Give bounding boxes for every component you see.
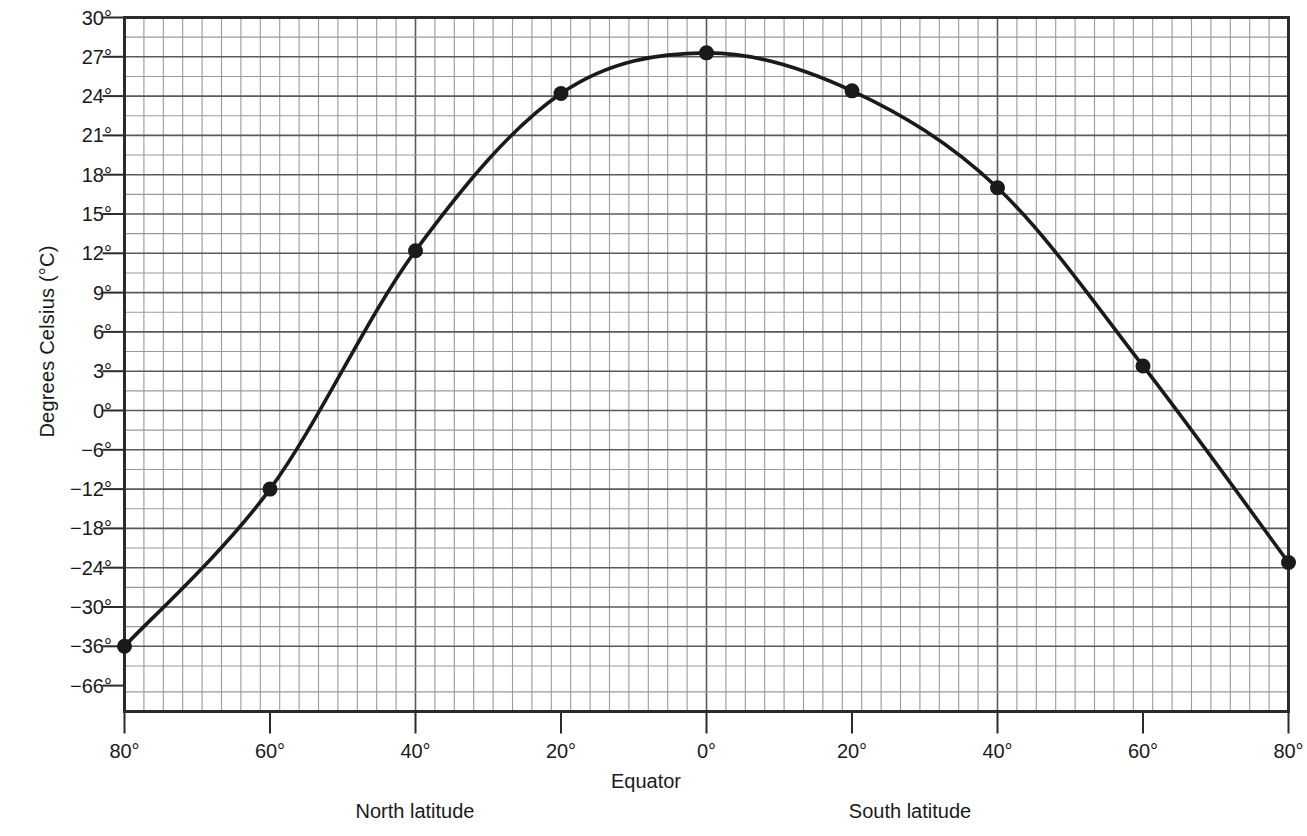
data-point-marker	[263, 482, 278, 497]
data-point-marker	[699, 45, 714, 60]
equator-caption: Equator	[516, 771, 776, 791]
axis-tick-marks	[103, 18, 1289, 734]
temperature-latitude-chart: Degrees Celsius (°C) 30°27°24°21°18°15°1…	[0, 0, 1307, 836]
data-point-marker	[990, 180, 1005, 195]
south-latitude-caption: South latitude	[760, 801, 1060, 821]
minor-gridlines	[125, 18, 1289, 712]
data-point-marker	[554, 86, 569, 101]
data-point-marker	[1281, 555, 1296, 570]
data-point-marker	[1136, 358, 1151, 373]
data-point-marker	[845, 83, 860, 98]
data-point-marker	[408, 243, 423, 258]
north-latitude-caption: North latitude	[265, 801, 565, 821]
data-point-marker	[117, 639, 132, 654]
plot-area	[0, 0, 1307, 836]
